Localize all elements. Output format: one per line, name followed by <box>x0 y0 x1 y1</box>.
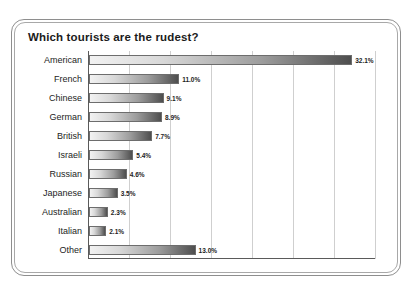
bar-row: Australian2.3% <box>88 207 375 217</box>
bar-row: British7.7% <box>88 131 375 141</box>
bar <box>89 169 127 179</box>
value-label: 7.7% <box>155 133 170 140</box>
bar-row: French11.0% <box>88 74 375 84</box>
category-label: American <box>44 55 82 65</box>
category-label: Australian <box>42 207 82 217</box>
bar-row: Italian2.1% <box>88 226 375 236</box>
value-label: 2.1% <box>109 227 124 234</box>
bar-row: Japanese3.5% <box>88 188 375 198</box>
category-label: Israeli <box>58 150 82 160</box>
bar-row: Other13.0% <box>88 245 375 255</box>
value-label: 11.0% <box>182 76 200 83</box>
category-label: German <box>49 112 82 122</box>
bar <box>89 74 179 84</box>
bar <box>89 207 108 217</box>
gridline <box>375 51 376 259</box>
bar <box>89 226 106 236</box>
category-label: Other <box>59 245 82 255</box>
bar <box>89 55 352 65</box>
bar <box>89 112 162 122</box>
value-label: 2.3% <box>111 208 126 215</box>
category-label: Japanese <box>43 188 82 198</box>
plot-area: American32.1%French11.0%Chinese9.1%Germa… <box>88 51 375 259</box>
value-label: 4.6% <box>130 170 145 177</box>
chart-title: Which tourists are the rudest? <box>28 31 199 43</box>
bar-row: American32.1% <box>88 55 375 65</box>
bar-rows-group: American32.1%French11.0%Chinese9.1%Germa… <box>88 51 375 259</box>
value-label: 5.4% <box>136 152 151 159</box>
value-label: 13.0% <box>199 246 217 253</box>
bar-row: Israeli5.4% <box>88 150 375 160</box>
bar-row: Russian4.6% <box>88 169 375 179</box>
bar-row: German8.9% <box>88 112 375 122</box>
value-label: 8.9% <box>165 114 180 121</box>
bar <box>89 188 118 198</box>
bar <box>89 150 133 160</box>
chart-card: Which tourists are the rudest? American3… <box>19 26 393 268</box>
category-label: Russian <box>49 169 82 179</box>
category-label: French <box>54 74 82 84</box>
category-label: Italian <box>58 226 82 236</box>
bar-row: Chinese9.1% <box>88 93 375 103</box>
value-label: 9.1% <box>167 95 182 102</box>
value-label: 3.5% <box>121 189 136 196</box>
category-label: British <box>57 131 82 141</box>
bar <box>89 93 164 103</box>
bar <box>89 131 152 141</box>
bar <box>89 245 196 255</box>
category-label: Chinese <box>49 93 82 103</box>
value-label: 32.1% <box>355 57 373 64</box>
